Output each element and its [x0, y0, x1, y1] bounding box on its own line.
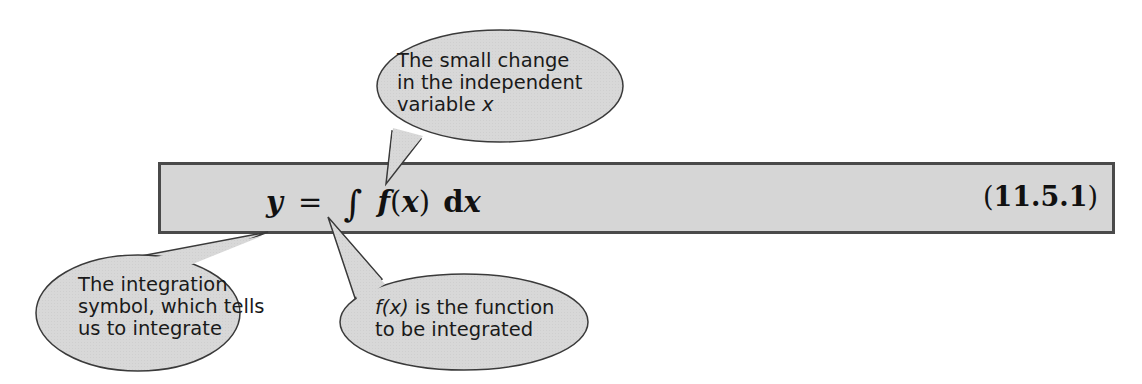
callout-top-line2: in the independent [397, 72, 582, 94]
equation-diagram: y = ∫ f(x) dx (11.5.1) [0, 0, 1142, 384]
callout-top-text: The small change in the independent vari… [397, 50, 582, 116]
callout-top-line1: The small change [397, 50, 582, 72]
callout-top-variable: x [482, 93, 494, 116]
callout-top-line3-text: variable [397, 93, 482, 116]
callout-bottom-right-expr: f(x) [375, 296, 409, 319]
callout-bottom-right-line2: to be integrated [375, 319, 554, 341]
callout-bottom-right-line1-text: is the function [409, 296, 555, 319]
callout-bottom-right-text: f(x) is the function to be integrated [375, 297, 554, 341]
callout-bottom-right-line1: f(x) is the function [375, 297, 554, 319]
callout-bottom-left-line3: us to integrate [78, 318, 264, 340]
callout-bottom-left-text: The integration symbol, which tells us t… [78, 274, 264, 340]
callout-bottom-left-line1: The integration [78, 274, 264, 296]
callout-bottom-left-line2: symbol, which tells [78, 296, 264, 318]
callout-top-line3: variable x [397, 94, 582, 116]
callout-bottom-right-shape [328, 217, 588, 370]
